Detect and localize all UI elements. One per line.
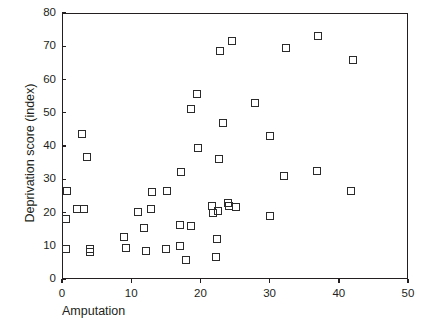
- y-axis-tick-mark: [62, 145, 66, 146]
- x-axis-tick-label: 40: [319, 283, 359, 301]
- x-axis-tick-text: 10: [125, 287, 138, 299]
- x-axis-tick-text: 50: [402, 287, 415, 299]
- x-axis-tick-text: 0: [59, 287, 65, 299]
- x-axis-tick-label: 30: [250, 283, 290, 301]
- y-axis-tick-mark: [62, 112, 66, 113]
- x-axis-tick-label: 10: [111, 283, 151, 301]
- x-axis-tick-label: 0: [42, 283, 82, 301]
- y-axis-tick-mark: [62, 179, 66, 180]
- plot-area-frame: [62, 13, 408, 279]
- y-axis-tick-label: 80: [22, 7, 56, 19]
- x-axis-tick-text: 30: [263, 287, 276, 299]
- y-axis-tick-mark: [62, 12, 66, 13]
- y-axis-tick-mark: [62, 46, 66, 47]
- y-axis-tick-mark: [62, 212, 66, 213]
- x-axis-tick-label: 20: [180, 283, 220, 301]
- y-axis-tick-mark: [62, 79, 66, 80]
- y-axis-tick-mark: [62, 245, 66, 246]
- x-axis-tick-text: 20: [194, 287, 207, 299]
- x-axis-tick-label: 50: [388, 283, 426, 301]
- y-axis-label: Deprivation score (index): [23, 43, 37, 263]
- scatter-plot-figure: 0102030405060708001020304050 Deprivation…: [0, 0, 426, 329]
- x-axis-tick-text: 40: [332, 287, 345, 299]
- y-axis-tick-text: 80: [22, 7, 56, 19]
- x-axis-label: Amputation: [62, 304, 262, 318]
